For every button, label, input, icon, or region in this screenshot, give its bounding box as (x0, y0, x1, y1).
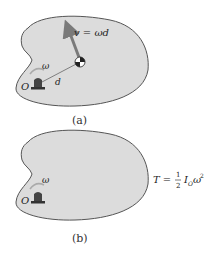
omega-label: ω (42, 61, 50, 71)
distance-label: d (55, 77, 61, 87)
omega-label: ω (42, 175, 50, 185)
kinetic-energy-diagram: v = ωd ω d O (a) ω O (0, 0, 210, 253)
equation-lhs: T = (153, 174, 171, 185)
fraction-numerator: 1 (176, 171, 180, 179)
figure-b: ω O T = 1 2 I O ω 2 (b) (16, 130, 204, 245)
pivot-label: O (21, 195, 29, 206)
figure-a: v = ωd ω d O (a) (16, 16, 148, 127)
caption-b: (b) (72, 232, 88, 245)
omega-power: 2 (200, 172, 204, 179)
center-of-mass-icon (75, 57, 85, 67)
kinetic-energy-equation: T = 1 2 I O ω 2 (153, 171, 204, 190)
caption-a: (a) (72, 114, 87, 127)
rigid-body-b (16, 130, 148, 220)
velocity-label: v = ωd (74, 27, 109, 38)
fraction-denominator: 2 (176, 182, 180, 190)
pivot-label: O (21, 81, 29, 92)
